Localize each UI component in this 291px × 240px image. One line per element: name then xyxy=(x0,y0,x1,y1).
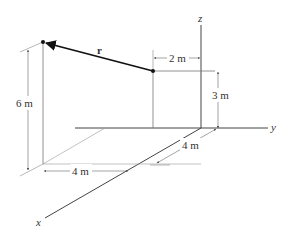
z-axis-label: z xyxy=(197,12,203,24)
dim-3m-label: 3 m xyxy=(212,89,229,101)
dim-6m-ext-bottom xyxy=(20,164,43,176)
position-vector-diagram: z y x 6 m 2 m 3 m 4 m 4 m r xyxy=(0,0,291,240)
dim-6m-ext xyxy=(20,42,43,52)
dim-2m-label: 2 m xyxy=(169,52,186,64)
dim-4m-y-label: 4 m xyxy=(182,139,199,151)
vector-r-label: r xyxy=(97,44,102,56)
point-A xyxy=(41,40,45,44)
point-B xyxy=(151,69,155,73)
y-axis-label: y xyxy=(270,121,276,133)
dim-6m-label: 6 m xyxy=(16,97,33,109)
base-diagonal xyxy=(43,128,105,164)
dim-4m-x-label: 4 m xyxy=(72,165,89,177)
x-axis xyxy=(45,128,201,218)
x-axis-label: x xyxy=(35,216,41,228)
